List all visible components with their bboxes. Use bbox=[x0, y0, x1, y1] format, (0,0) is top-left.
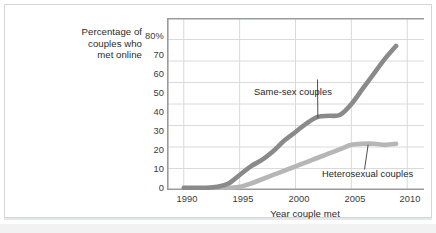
x-tick-label-2005: 2005 bbox=[335, 194, 375, 204]
x-tick-label-1990: 1990 bbox=[167, 194, 207, 204]
y-tick-label-60: 60 bbox=[130, 69, 164, 79]
y-tick-label-0: 0 bbox=[130, 183, 164, 193]
y-tick-label-80: 80% bbox=[130, 31, 164, 41]
y-tick-label-70: 70 bbox=[130, 50, 164, 60]
y-tick-label-10: 10 bbox=[130, 164, 164, 174]
annotation-same-sex-couples: Same-sex couples bbox=[254, 86, 332, 97]
plot-area bbox=[167, 18, 424, 190]
leader-line-heterosexual bbox=[365, 145, 369, 170]
x-axis-title: Year couple met bbox=[230, 208, 380, 219]
y-tick-label-50: 50 bbox=[130, 88, 164, 98]
y-tick-label-40: 40 bbox=[130, 107, 164, 117]
chart-figure: Percentage of couples who met online 80%… bbox=[0, 0, 436, 233]
annotation-heterosexual-couples: Heterosexual couples bbox=[322, 168, 413, 179]
y-axis-title-line-1: Percentage of bbox=[28, 26, 142, 38]
y-axis-title: Percentage of couples who met online bbox=[28, 26, 142, 61]
x-tick-label-2000: 2000 bbox=[279, 194, 319, 204]
y-axis-title-line-3: met online bbox=[28, 49, 142, 61]
line-heterosexual-couples bbox=[184, 144, 396, 189]
y-tick-label-20: 20 bbox=[130, 145, 164, 155]
x-tick-label-2010: 2010 bbox=[390, 194, 430, 204]
x-tick-label-1995: 1995 bbox=[223, 194, 263, 204]
figure-bottom-strip bbox=[0, 224, 436, 233]
y-tick-label-30: 30 bbox=[130, 126, 164, 136]
y-axis-title-line-2: couples who bbox=[28, 38, 142, 50]
plot-svg bbox=[167, 18, 424, 190]
